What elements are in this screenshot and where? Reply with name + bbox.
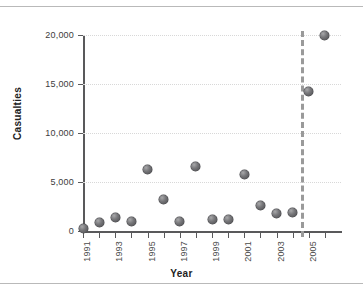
x-tick-1996 [164,233,165,238]
x-tick-1993 [115,233,116,238]
y-tick-20000 [78,35,83,36]
data-point-1996 [159,195,168,204]
x-tick-2000 [228,233,229,238]
y-tick-label-15000: 15,000 [45,79,74,89]
y-tick-label-20000: 20,000 [45,30,74,40]
data-point-2005 [304,87,313,96]
data-point-2004 [288,208,297,217]
data-point-1999 [208,215,217,224]
data-point-1997 [175,217,184,226]
chart-figure: Casualties Year 20,00015,00010,0005,0000… [0,0,363,295]
x-tick-1997 [180,233,181,238]
x-tick-2004 [293,233,294,238]
y-tick-5000 [78,182,83,183]
data-point-1993 [111,213,120,222]
x-tick-1994 [131,233,132,238]
x-tick-label-1993: 1993 [114,241,124,262]
x-tick-1995 [148,233,149,238]
bottom-divider [0,283,363,284]
data-point-1992 [95,218,104,227]
x-tick-label-1991: 1991 [82,241,92,262]
x-tick-label-1999: 1999 [211,241,221,262]
x-tick-2002 [260,233,261,238]
x-tick-label-1995: 1995 [147,241,157,262]
x-tick-2001 [244,233,245,238]
x-tick-2005 [309,233,310,238]
x-tick-label-2005: 2005 [308,241,318,262]
y-tick-label-5000: 5,000 [50,177,74,187]
data-point-1991 [79,224,88,233]
data-point-2002 [256,201,265,210]
top-divider [0,6,363,7]
data-point-1998 [191,162,200,171]
x-tick-label-2003: 2003 [276,241,286,262]
data-point-2003 [272,209,281,218]
data-point-1994 [127,217,136,226]
x-axis-title: Year [0,268,363,279]
x-tick-1991 [83,233,84,238]
x-tick-label-2001: 2001 [243,241,253,262]
x-tick-2006 [325,233,326,238]
x-tick-1992 [99,233,100,238]
data-point-2001 [240,170,249,179]
y-tick-label-10000: 10,000 [45,128,74,138]
y-tick-label-0: 0 [69,226,74,236]
data-point-2000 [224,215,233,224]
x-tick-1998 [196,233,197,238]
plot-area: 20,00015,00010,0005,0000 199119931995199… [83,35,341,231]
y-axis-title: Casualties [12,87,23,140]
y-tick-10000 [78,133,83,134]
data-point-1995 [143,165,152,174]
y-tick-15000 [78,84,83,85]
reference-line-dashed [301,31,304,237]
x-tick-2003 [277,233,278,238]
data-point-2006 [320,31,329,40]
x-tick-1999 [212,233,213,238]
x-tick-label-1997: 1997 [179,241,189,262]
